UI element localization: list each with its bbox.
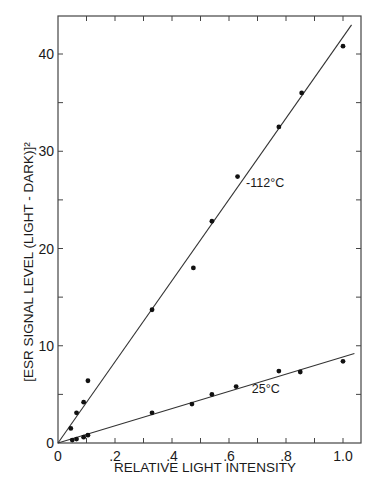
data-point (150, 307, 155, 312)
data-point (74, 437, 79, 442)
data-point (341, 359, 346, 364)
y-tick-label: 40 (38, 46, 54, 62)
data-point (81, 400, 86, 405)
data-point (70, 438, 75, 443)
data-point (86, 378, 91, 383)
data-point (276, 125, 281, 130)
x-tick-label: 1.0 (333, 448, 353, 464)
esr-signal-chart: 0.2.4.6.81.0010203040 -112°C25°C RELATIV… (0, 0, 369, 486)
data-point (298, 370, 303, 375)
data-point (299, 91, 304, 96)
y-axis-label: [ESR SIGNAL LEVEL (LIGHT - DARK)]² (21, 142, 36, 382)
y-tick-label: 0 (46, 435, 54, 451)
y-tick-label: 20 (38, 241, 54, 257)
data-point (150, 410, 155, 415)
data-point (276, 369, 281, 374)
fit-lines (58, 25, 354, 443)
data-point (210, 219, 215, 224)
x-axis-label: RELATIVE LIGHT INTENSITY (114, 460, 296, 475)
data-point (341, 44, 346, 49)
data-point (86, 433, 91, 438)
series-label: 25°C (252, 382, 280, 396)
data-point (190, 402, 195, 407)
series-labels: -112°C25°C (246, 176, 284, 396)
data-points (68, 44, 345, 443)
data-point (234, 384, 239, 389)
data-point (68, 426, 73, 431)
y-tick-label: 30 (38, 143, 54, 159)
x-tick-label: 0 (54, 448, 62, 464)
series-label: -112°C (246, 176, 284, 190)
y-tick-label: 10 (38, 338, 54, 354)
data-point (235, 174, 240, 179)
data-point (210, 392, 215, 397)
fit-line (58, 354, 354, 443)
fit-line (58, 25, 352, 443)
data-point (191, 266, 196, 271)
data-point (74, 410, 79, 415)
chart-canvas: 0.2.4.6.81.0010203040 -112°C25°C RELATIV… (0, 0, 369, 486)
data-point (81, 435, 86, 440)
